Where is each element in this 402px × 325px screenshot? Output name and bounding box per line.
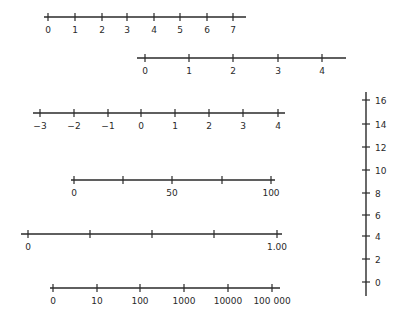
number-line-line-log-scale: 010100100010000100 000: [50, 284, 291, 306]
tick-label: 100 000: [253, 296, 290, 306]
tick-label: 10: [375, 166, 387, 176]
tick-label: 1000: [173, 296, 196, 306]
tick-label: 16: [375, 96, 387, 106]
tick-label: 2: [375, 255, 381, 265]
tick-label: 1.00: [267, 242, 287, 252]
tick-label: 6: [375, 211, 381, 221]
number-line-line-0-to-100: 050100: [71, 176, 280, 198]
tick-label: −1: [101, 121, 114, 131]
number-line-line-0-to-1: 01.00: [21, 230, 287, 252]
tick-label: 1: [186, 66, 192, 76]
tick-label: 100: [131, 296, 148, 306]
number-line-line-0-to-4: 01234: [137, 54, 346, 76]
tick-label: 3: [124, 25, 130, 35]
tick-label: −2: [67, 121, 80, 131]
tick-label: 2: [230, 66, 236, 76]
number-lines-diagram: 0123456701234−3−2−10123405010001.0001010…: [0, 0, 402, 325]
tick-label: 0: [45, 25, 51, 35]
tick-label: 0: [142, 66, 148, 76]
number-line-line-vertical-0-to-16: 1614121086420: [362, 92, 387, 296]
tick-label: 7: [230, 25, 236, 35]
tick-label: 4: [319, 66, 325, 76]
tick-label: 8: [375, 189, 381, 199]
tick-label: 0: [71, 188, 77, 198]
tick-label: 4: [375, 232, 381, 242]
number-line-line-neg3-to-4: −3−2−101234: [33, 109, 285, 131]
tick-label: 5: [177, 25, 183, 35]
tick-label: 0: [50, 296, 56, 306]
tick-label: 6: [204, 25, 210, 35]
tick-label: 10: [91, 296, 103, 306]
tick-label: 3: [275, 66, 281, 76]
tick-label: 12: [375, 143, 386, 153]
number-lines-canvas: 0123456701234−3−2−10123405010001.0001010…: [0, 0, 402, 325]
tick-label: 0: [375, 278, 381, 288]
tick-label: 0: [138, 121, 144, 131]
tick-label: 100: [262, 188, 279, 198]
tick-label: 14: [375, 120, 387, 130]
tick-label: 2: [99, 25, 105, 35]
tick-label: 0: [25, 242, 31, 252]
tick-label: 4: [151, 25, 157, 35]
number-line-line-0-to-7: 01234567: [44, 13, 246, 35]
tick-label: 1: [72, 25, 78, 35]
tick-label: 1: [172, 121, 178, 131]
tick-label: 50: [166, 188, 178, 198]
tick-label: 10000: [214, 296, 243, 306]
tick-label: −3: [33, 121, 46, 131]
tick-label: 4: [275, 121, 281, 131]
tick-label: 2: [206, 121, 212, 131]
tick-label: 3: [240, 121, 246, 131]
